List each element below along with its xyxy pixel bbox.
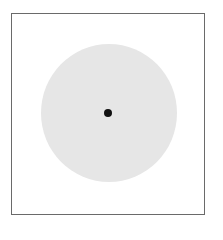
center-dot [104,109,112,117]
